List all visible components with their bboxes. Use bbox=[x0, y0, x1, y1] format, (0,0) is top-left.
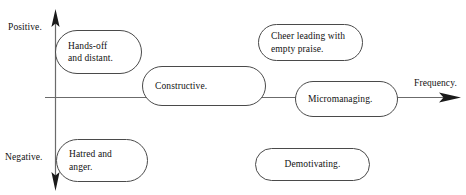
node-demotivating[interactable]: Demotivating. bbox=[255, 148, 370, 181]
node-hatred-and-anger[interactable]: Hatred and anger. bbox=[56, 139, 148, 182]
node-hands-off[interactable]: Hands-off and distant. bbox=[55, 30, 142, 74]
axis-label-negative: Negative. bbox=[5, 152, 43, 162]
node-hatred-and-anger-label: Hatred and anger. bbox=[69, 148, 112, 173]
node-cheer-leading[interactable]: Cheer leading with empty praise. bbox=[258, 24, 363, 61]
node-hands-off-label: Hands-off and distant. bbox=[68, 40, 113, 65]
node-demotivating-label: Demotivating. bbox=[285, 158, 341, 171]
axis-label-positive: Positive. bbox=[8, 22, 42, 32]
node-constructive[interactable]: Constructive. bbox=[142, 66, 266, 106]
node-cheer-leading-line-1: Cheer leading with bbox=[271, 31, 345, 41]
node-hatred-and-anger-line-1: Hatred and bbox=[69, 149, 112, 159]
node-micromanaging-label: Micromanaging. bbox=[308, 93, 372, 106]
node-hatred-and-anger-line-2: anger. bbox=[69, 162, 93, 172]
diagram-canvas: Positive. Negative. Frequency. Hands-off… bbox=[0, 0, 466, 195]
node-micromanaging[interactable]: Micromanaging. bbox=[295, 81, 398, 117]
node-cheer-leading-label: Cheer leading with empty praise. bbox=[271, 30, 345, 55]
node-constructive-label: Constructive. bbox=[155, 80, 207, 93]
axis-label-frequency: Frequency. bbox=[414, 78, 457, 88]
node-hands-off-line-2: and distant. bbox=[68, 53, 113, 63]
node-cheer-leading-line-2: empty praise. bbox=[271, 44, 323, 54]
node-hands-off-line-1: Hands-off bbox=[68, 41, 107, 51]
